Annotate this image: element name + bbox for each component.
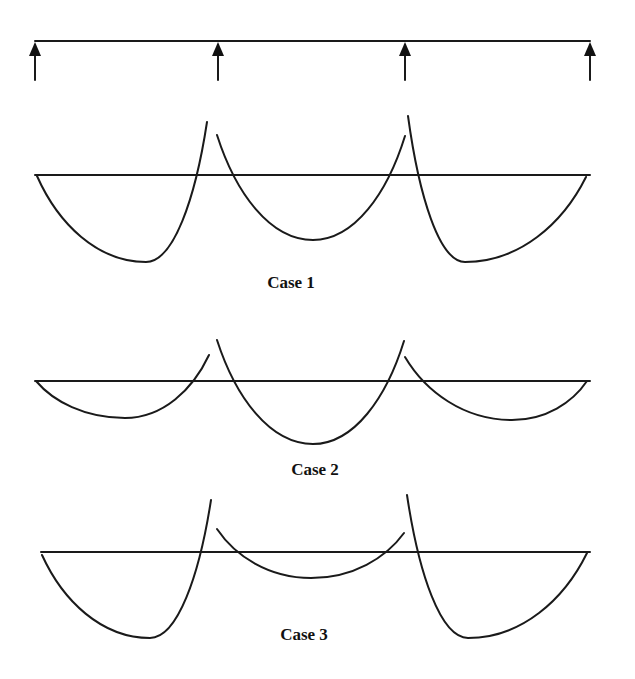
case-2-label: Case 2 xyxy=(291,460,339,479)
case-1-label: Case 1 xyxy=(267,273,315,292)
case-3-label: Case 3 xyxy=(280,625,328,644)
beam-moment-diagram: Case 1 Case 2 Case 3 xyxy=(0,0,635,679)
